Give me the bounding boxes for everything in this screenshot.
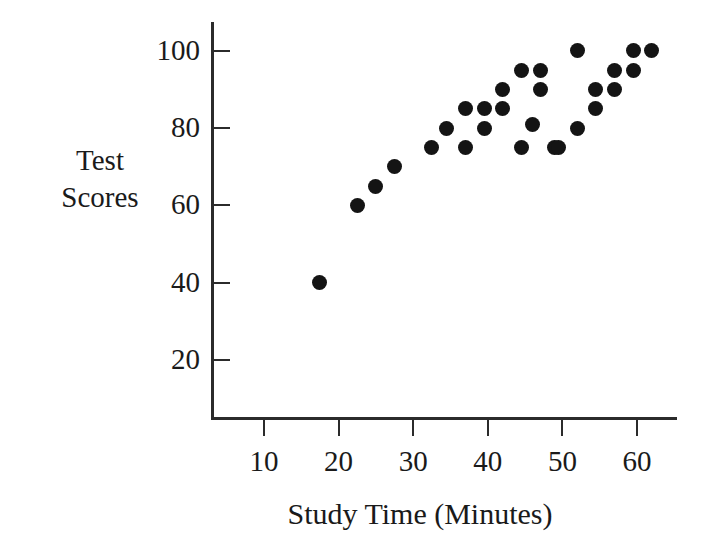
data-point — [588, 82, 603, 97]
y-tick-label-80: 80 — [120, 113, 200, 142]
y-axis-title-line-2: Scores — [10, 179, 190, 216]
data-point — [547, 140, 562, 155]
x-tick-10 — [263, 420, 265, 436]
x-tick-40 — [487, 420, 489, 436]
data-point — [588, 101, 603, 116]
y-axis-title-line-1: Test — [10, 142, 190, 179]
data-point — [570, 121, 585, 136]
scatter-plot-figure: 20406080100102030405060 Test Scores Stud… — [0, 0, 705, 547]
x-tick-20 — [338, 420, 340, 436]
data-point — [551, 140, 566, 155]
data-point — [387, 159, 402, 174]
data-point — [514, 140, 529, 155]
y-tick-label-100: 100 — [120, 36, 200, 65]
x-axis-line — [211, 417, 677, 420]
data-point — [525, 117, 540, 132]
data-point — [458, 140, 473, 155]
x-tick-label-40: 40 — [453, 447, 523, 476]
data-point — [312, 275, 327, 290]
y-tick-80 — [214, 127, 230, 129]
y-tick-100 — [214, 50, 230, 52]
data-point — [607, 63, 622, 78]
data-point — [626, 63, 641, 78]
x-axis-title: Study Time (Minutes) — [180, 497, 660, 531]
y-tick-label-20: 20 — [120, 345, 200, 374]
x-tick-30 — [412, 420, 414, 436]
x-tick-label-10: 10 — [229, 447, 299, 476]
x-tick-label-50: 50 — [527, 447, 597, 476]
x-tick-label-20: 20 — [304, 447, 374, 476]
x-tick-60 — [636, 420, 638, 436]
data-point — [439, 121, 454, 136]
data-point — [350, 198, 365, 213]
data-point — [570, 43, 585, 58]
y-axis-title: Test Scores — [10, 142, 190, 216]
data-point — [626, 43, 641, 58]
data-point — [533, 82, 548, 97]
data-point — [514, 63, 529, 78]
data-point — [607, 82, 622, 97]
x-tick-label-30: 30 — [378, 447, 448, 476]
y-tick-60 — [214, 204, 230, 206]
data-point — [495, 101, 510, 116]
x-tick-50 — [561, 420, 563, 436]
data-point — [644, 43, 659, 58]
y-tick-label-40: 40 — [120, 268, 200, 297]
data-point — [458, 101, 473, 116]
y-tick-40 — [214, 282, 230, 284]
x-tick-label-60: 60 — [602, 447, 672, 476]
data-point — [533, 63, 548, 78]
data-point — [495, 82, 510, 97]
data-point — [424, 140, 439, 155]
data-point — [477, 101, 492, 116]
data-point — [368, 179, 383, 194]
data-point — [477, 121, 492, 136]
y-tick-20 — [214, 359, 230, 361]
